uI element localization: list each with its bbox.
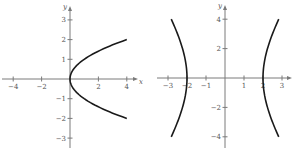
y-tick-label: 2 xyxy=(217,45,221,53)
x-tick-label: 3 xyxy=(280,82,284,90)
y-tick-label: 3 xyxy=(62,16,66,24)
y-tick-label: 1 xyxy=(62,56,66,64)
y-tick-label: 4 xyxy=(217,16,222,24)
x-tick-label: 4 xyxy=(125,83,130,91)
x-tick-label: −1 xyxy=(201,82,211,90)
x-tick-label: −4 xyxy=(8,83,19,91)
x-tick-label: −3 xyxy=(163,82,173,90)
parabola-plot: −4−224321−1−2−3xy xyxy=(2,3,143,148)
x-axis-label: x xyxy=(139,78,143,86)
x-tick-label: 1 xyxy=(242,82,246,90)
hyperbola-plot: −3−2−112342−2−4y xyxy=(157,2,292,148)
y-axis-arrow-icon xyxy=(223,5,227,10)
x-axis-arrow-icon xyxy=(287,76,292,80)
x-axis-arrow-icon xyxy=(133,77,138,81)
y-tick-label: −1 xyxy=(56,95,66,103)
y-axis-arrow-icon xyxy=(68,6,72,11)
y-tick-label: −2 xyxy=(56,115,66,123)
x-tick-label: −2 xyxy=(36,83,46,91)
y-tick-label: −4 xyxy=(211,133,222,141)
figure-canvas: −4−224321−1−2−3xy −3−2−112342−2−4y xyxy=(0,0,293,161)
y-tick-label: 2 xyxy=(62,36,66,44)
y-tick-label: −2 xyxy=(211,104,221,112)
y-axis-label: y xyxy=(217,2,223,10)
y-axis-label: y xyxy=(62,3,68,11)
x-tick-label: 2 xyxy=(96,83,100,91)
y-tick-label: −3 xyxy=(56,135,66,143)
